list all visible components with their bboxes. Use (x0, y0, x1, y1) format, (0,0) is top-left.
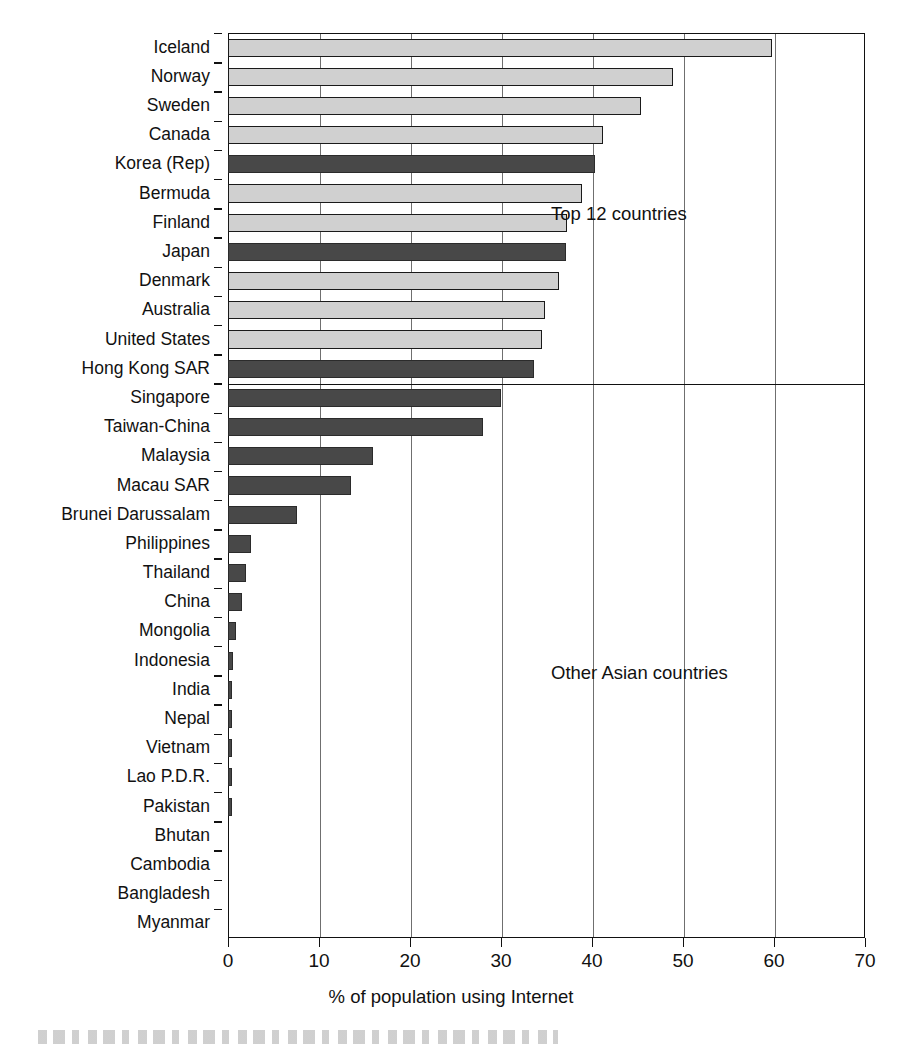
y-axis-label: Japan (162, 243, 210, 261)
bar-row (228, 646, 865, 675)
bar-row (228, 62, 865, 91)
bar-australia (228, 301, 545, 319)
y-axis-label: Myanmar (137, 914, 210, 932)
y-axis-tick (214, 179, 222, 180)
y-axis-tick (214, 500, 222, 501)
y-axis-label: Sweden (147, 97, 210, 115)
bar-row (228, 821, 865, 850)
x-axis-tick-20 (410, 938, 411, 947)
x-axis-tick-label: 30 (490, 951, 511, 970)
bar-row (228, 792, 865, 821)
bar-row (228, 529, 865, 558)
bar-indonesia (228, 652, 233, 670)
y-axis-label: Finland (153, 214, 210, 232)
y-axis-label: Macau SAR (117, 477, 210, 495)
bar-row (228, 909, 865, 938)
y-axis-tick (214, 646, 222, 647)
bar-mongolia (228, 622, 236, 640)
y-axis-tick (214, 91, 222, 92)
y-axis-label: Nepal (164, 710, 210, 728)
bar-canada (228, 126, 603, 144)
y-axis-label: Hong Kong SAR (82, 360, 210, 378)
bar-nepal (228, 710, 232, 728)
bar-row (228, 150, 865, 179)
y-axis-tick (214, 33, 222, 34)
bar-malaysia (228, 447, 373, 465)
x-axis-tick-50 (683, 938, 684, 947)
y-axis-label: Cambodia (130, 856, 210, 874)
y-axis-tick (214, 150, 222, 151)
caption-redacted-strip (38, 1030, 558, 1044)
y-axis-label: Bermuda (139, 185, 210, 203)
y-axis-label: Philippines (125, 535, 210, 553)
bar-philippines (228, 535, 251, 553)
bar-row (228, 413, 865, 442)
annotation-other-asian-countries: Other Asian countries (551, 662, 728, 684)
bar-hong-kong-sar (228, 360, 534, 378)
bar-china (228, 593, 242, 611)
y-axis-label: Korea (Rep) (115, 155, 210, 173)
y-axis-label: Bangladesh (118, 885, 210, 903)
y-axis-tick (214, 529, 222, 530)
y-axis-tick (214, 471, 222, 472)
bar-row (228, 91, 865, 120)
bar-row (228, 325, 865, 354)
bar-lao-p-d-r (228, 768, 232, 786)
y-axis-label: India (172, 681, 210, 699)
y-axis-tick (214, 296, 222, 297)
bar-row (228, 237, 865, 266)
y-axis-label: Taiwan-China (104, 418, 210, 436)
bar-row (228, 471, 865, 500)
bar-row (228, 734, 865, 763)
bar-row (228, 121, 865, 150)
y-axis-labels: IcelandNorwaySwedenCanadaKorea (Rep)Berm… (0, 33, 222, 938)
y-axis-tick (214, 62, 222, 63)
bar-united-states (228, 330, 542, 348)
bar-row (228, 763, 865, 792)
y-axis-tick (214, 734, 222, 735)
y-axis-label: Indonesia (134, 652, 210, 670)
bar-row (228, 704, 865, 733)
x-axis-tick-label: 60 (763, 951, 784, 970)
y-axis-tick (214, 909, 222, 910)
x-axis-tick-60 (774, 938, 775, 947)
bar-row (228, 850, 865, 879)
x-axis-tick-40 (592, 938, 593, 947)
y-axis-tick (214, 267, 222, 268)
y-axis-tick (214, 880, 222, 881)
bar-india (228, 681, 232, 699)
y-axis-tick (214, 121, 222, 122)
x-axis-tick-label: 20 (399, 951, 420, 970)
y-axis-tick (214, 763, 222, 764)
x-axis-tick-70 (865, 938, 866, 947)
bar-korea-rep (228, 155, 595, 173)
y-axis-label: Lao P.D.R. (127, 768, 210, 786)
y-axis-tick (214, 354, 222, 355)
y-axis-tick (214, 704, 222, 705)
internet-usage-bar-chart: IcelandNorwaySwedenCanadaKorea (Rep)Berm… (0, 0, 902, 1052)
y-axis-label: Vietnam (146, 739, 210, 757)
bar-row (228, 588, 865, 617)
bar-japan (228, 243, 566, 261)
bar-bermuda (228, 184, 582, 202)
bar-row (228, 558, 865, 587)
x-axis-tick-30 (501, 938, 502, 947)
y-axis-tick (214, 325, 222, 326)
x-axis-tick-label: 50 (672, 951, 693, 970)
bar-row (228, 500, 865, 529)
y-axis-tick (214, 617, 222, 618)
y-axis-label: Singapore (130, 389, 210, 407)
bar-row (228, 442, 865, 471)
y-axis-tick (214, 821, 222, 822)
x-axis-tick-label: 70 (854, 951, 875, 970)
y-axis-tick (214, 442, 222, 443)
y-axis-label: Thailand (143, 564, 210, 582)
bars-layer (228, 33, 865, 938)
bar-singapore (228, 389, 501, 407)
y-axis-label: Bhutan (155, 827, 210, 845)
x-axis-title: % of population using Internet (0, 986, 902, 1008)
y-axis-label: China (164, 593, 210, 611)
bar-vietnam (228, 739, 232, 757)
y-axis-tick (214, 588, 222, 589)
y-axis-label: Norway (151, 68, 210, 86)
